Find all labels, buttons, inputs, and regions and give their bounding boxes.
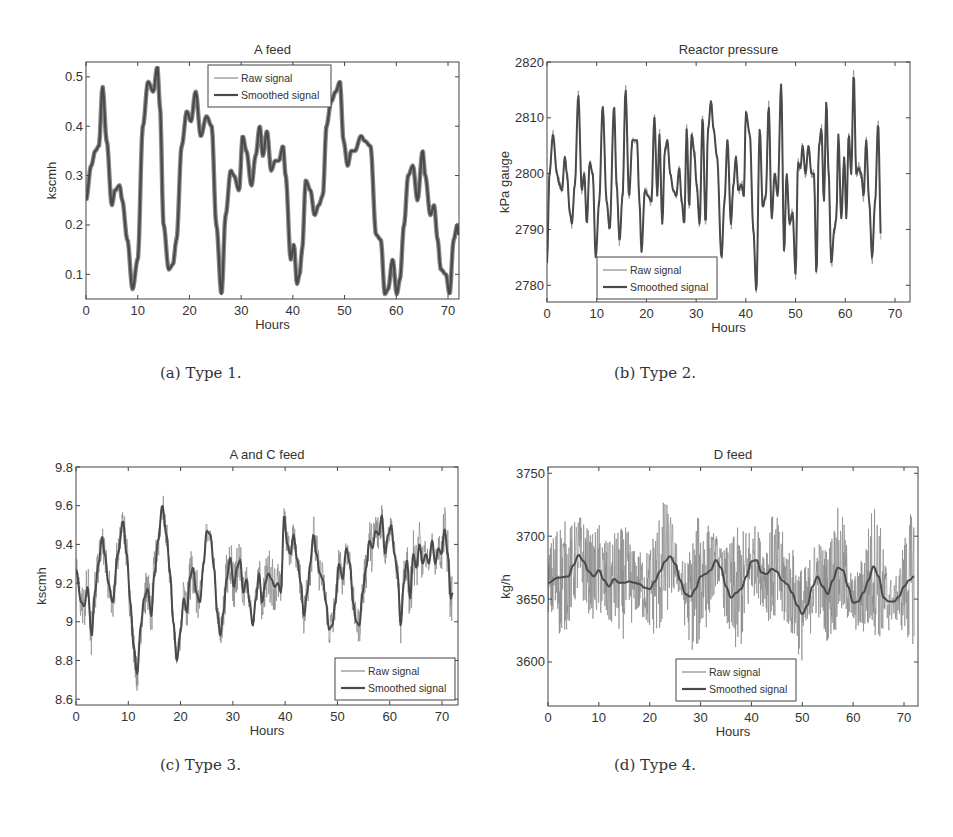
- chart-title: D feed: [714, 447, 752, 462]
- plot-area: [548, 503, 914, 661]
- x-tick-label: 10: [592, 710, 606, 725]
- x-tick-label: 20: [642, 710, 656, 725]
- x-tick-label: 70: [897, 710, 911, 725]
- x-tick-label: 40: [744, 710, 758, 725]
- chart-d-feed: D feed0102030405060703600365037003750Hou…: [0, 0, 953, 837]
- y-tick-label: 3650: [516, 592, 545, 607]
- y-tick-label: 3750: [516, 466, 545, 481]
- legend-smoothed-signal-label: Smoothed signal: [709, 683, 787, 695]
- y-axis-label: kg/h: [498, 574, 513, 599]
- y-tick-label: 3600: [516, 654, 545, 669]
- caption-d: (d) Type 4.: [614, 756, 696, 774]
- legend: Raw signalSmoothed signal: [676, 659, 796, 701]
- x-tick-label: 0: [544, 710, 551, 725]
- raw-signal-line: [548, 503, 914, 661]
- legend-raw-signal-label: Raw signal: [709, 666, 760, 678]
- x-tick-label: 60: [846, 710, 860, 725]
- x-tick-label: 50: [795, 710, 809, 725]
- x-axis-label: Hours: [716, 724, 751, 739]
- y-tick-label: 3700: [516, 529, 545, 544]
- x-tick-label: 30: [693, 710, 707, 725]
